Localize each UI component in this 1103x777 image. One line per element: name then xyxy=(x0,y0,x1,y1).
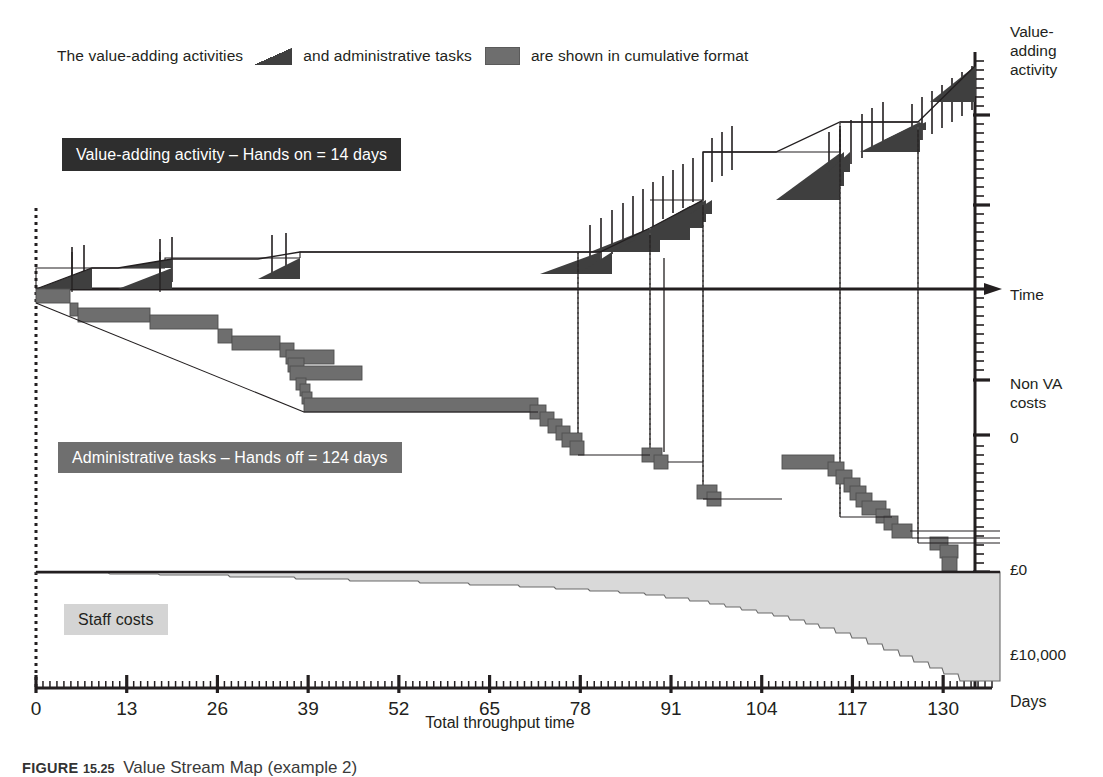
administrative-staircase-lines xyxy=(36,303,1000,543)
figure-caption-label: FIGURE xyxy=(22,760,79,776)
figure-caption: FIGURE 15.25 Value Stream Map (example 2… xyxy=(22,758,357,777)
callout-administrative-tasks: Administrative tasks – Hands off = 124 d… xyxy=(58,442,402,473)
x-axis-major-ticks xyxy=(36,675,943,693)
callout-value-adding-activity: Value-adding activity – Hands on = 14 da… xyxy=(62,138,401,171)
axis-label-time: Time xyxy=(1010,285,1044,304)
figure-caption-text: Value Stream Map (example 2) xyxy=(123,758,357,777)
axis-label-value-adding-activity: Value- adding activity xyxy=(1010,22,1057,79)
value-adding-triangles xyxy=(36,66,976,289)
axis-label-zero: 0 xyxy=(1010,428,1019,447)
time-axis-arrow-icon xyxy=(984,283,1002,295)
administrative-series xyxy=(36,130,1000,571)
staff-costs-area xyxy=(36,572,1000,681)
staff-costs-series xyxy=(36,572,1000,681)
figure-root: The value-adding activities and administ… xyxy=(0,0,1103,777)
administrative-step-blocks xyxy=(36,289,958,571)
value-adding-drop-lines xyxy=(578,122,918,540)
axis-label-pound-ten-thousand: £10,000 xyxy=(1010,645,1066,664)
figure-caption-number: 15.25 xyxy=(83,762,114,776)
axis-label-days: Days xyxy=(1010,692,1046,711)
callout-staff-costs: Staff costs xyxy=(64,604,168,635)
value-stream-map-plot: 013263952657891104117130 xyxy=(0,0,1103,777)
x-axis-title: Total throughput time xyxy=(0,714,1000,732)
axis-label-non-va-costs: Non VA costs xyxy=(1010,374,1062,412)
axis-label-pound-zero: £0 xyxy=(1010,560,1027,579)
